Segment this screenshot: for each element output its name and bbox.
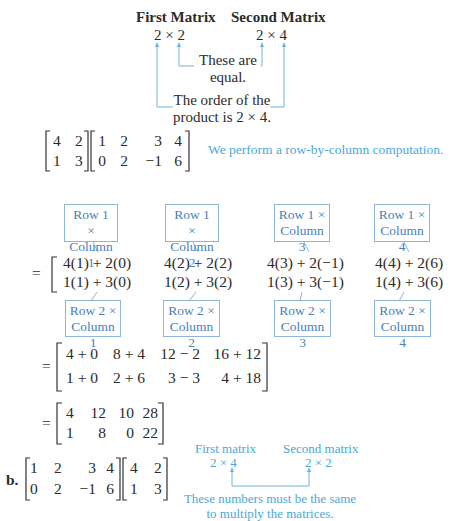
matrix-cell: 3 (76, 459, 96, 477)
expansion-cell: 1(4) + 3(6) (375, 273, 443, 291)
result-cell: 10 (114, 404, 134, 422)
matrix-cell: 4 (130, 459, 138, 477)
expansion-cell: 4(1) + 2(0) (63, 254, 131, 272)
order-note: The order of the product is 2 × 4. (160, 92, 284, 126)
result-cell: 0 (114, 424, 134, 442)
sums-cell: 4 + 0 (66, 345, 98, 363)
expansion-cell: 4(3) + 2(−1) (267, 254, 344, 272)
matrix-cell: 2 (114, 152, 128, 170)
matrix-cell: 1 (53, 152, 61, 170)
box-line1: Row 1 × (378, 207, 426, 223)
expansion-cell: 4(4) + 2(6) (375, 254, 443, 272)
part-b-note-line1: These numbers must be the same (180, 491, 360, 506)
part-b-label: b. (6, 471, 19, 489)
equal-note-line1: These are (180, 52, 276, 69)
matrix-cell: 6 (168, 152, 182, 170)
matrix-cell: 1 (92, 132, 106, 150)
matrix-cell: 0 (30, 480, 38, 498)
part-b-note-line2: to multiply the matrices. (180, 506, 360, 521)
second-matrix-label: Second Matrix (231, 9, 326, 26)
matrix-cell: 4 (168, 132, 182, 150)
expansion-cell: 1(1) + 3(0) (63, 273, 131, 291)
box-line2: Column 4 (378, 223, 426, 255)
row2-col3-box: Row 2 × Column 3 (274, 300, 331, 337)
sums-equals: = (42, 357, 51, 375)
expansion-cell: 4(2) + 2(2) (164, 254, 232, 272)
part-b-first-dims: 2 × 4 (210, 455, 237, 470)
matrix-cell: 6 (100, 480, 114, 498)
box-line1: Row 1 × (169, 207, 215, 239)
matrix-cell: 1 (30, 459, 38, 477)
row2-col1-box: Row 2 × Column 1 (65, 300, 121, 337)
matrix-cell: 4 (53, 132, 61, 150)
first-matrix-dims: 2 × 2 (154, 27, 185, 44)
matrix-cell: 4 (100, 459, 114, 477)
box-line1: Row 2 × (278, 303, 327, 319)
row-by-column-note: We perform a row-by-column computation. (208, 142, 443, 158)
sums-cell: 3 − 3 (156, 369, 200, 387)
result-cell: 4 (66, 404, 74, 422)
order-note-line1: The order of the (160, 92, 284, 109)
row1-col3-box: Row 1 × Column 3 (274, 204, 330, 242)
row2-col4-box: Row 2 × Column 4 (374, 300, 431, 337)
equal-note-line2: equal. (180, 69, 276, 86)
result-cell: 8 (86, 424, 106, 442)
result-cell: 12 (86, 404, 106, 422)
part-b-second-dims: 2 × 2 (305, 455, 332, 470)
matrix-cell: 1 (130, 480, 138, 498)
result-cell: 1 (66, 424, 74, 442)
sums-cell: 8 + 4 (113, 345, 145, 363)
expansion-equals: = (32, 264, 41, 282)
box-line1: Row 2 × (167, 303, 216, 319)
sums-cell: 2 + 6 (113, 369, 145, 387)
box-line2: Column 3 (278, 223, 326, 255)
matrix-cell: 3 (142, 132, 162, 150)
expansion-cell: 1(2) + 3(2) (164, 273, 232, 291)
matrix-cell: 3 (75, 152, 83, 170)
matrix-cell: 0 (92, 152, 106, 170)
row1-col1-box: Row 1 × Column 1 (64, 204, 118, 242)
part-b-second-matrix-label: Second matrix (283, 441, 358, 456)
part-b-note: These numbers must be the same to multip… (180, 491, 360, 521)
equal-note: These are equal. (180, 52, 276, 86)
row2-col2-box: Row 2 × Column 2 (163, 300, 220, 337)
part-b-first-matrix-label: First matrix (195, 441, 256, 456)
second-matrix-dims: 2 × 4 (256, 27, 287, 44)
result-cell: 28 (138, 404, 158, 422)
row1-col2-box: Row 1 × Column 2 (165, 204, 219, 242)
box-line1: Row 2 × (378, 303, 427, 319)
sums-cell: 4 + 18 (208, 369, 261, 387)
row1-col4-box: Row 1 × Column 4 (374, 204, 430, 242)
matrix-cell: −1 (142, 152, 162, 170)
sums-cell: 16 + 12 (208, 345, 261, 363)
sums-cell: 1 + 0 (66, 369, 98, 387)
matrix-cell: 2 (154, 459, 162, 477)
matrix-cell: 2 (54, 459, 62, 477)
box-line1: Row 1 × (68, 207, 114, 239)
matrix-cell: −1 (76, 480, 96, 498)
box-line2: Column 3 (278, 319, 327, 351)
matrix-cell: 2 (114, 132, 128, 150)
expansion-cell: 1(3) + 3(−1) (267, 273, 344, 291)
box-line2: Column 4 (378, 319, 427, 351)
result-cell: 22 (138, 424, 158, 442)
box-line1: Row 2 × (69, 303, 117, 319)
matrix-cell: 2 (54, 480, 62, 498)
box-line1: Row 1 × (278, 207, 326, 223)
order-note-line2: product is 2 × 4. (160, 109, 284, 126)
result-equals: = (42, 414, 51, 432)
sums-cell: 12 − 2 (156, 345, 200, 363)
matrix-cell: 3 (154, 480, 162, 498)
matrix-cell: 2 (75, 132, 83, 150)
first-matrix-label: First Matrix (136, 9, 216, 26)
